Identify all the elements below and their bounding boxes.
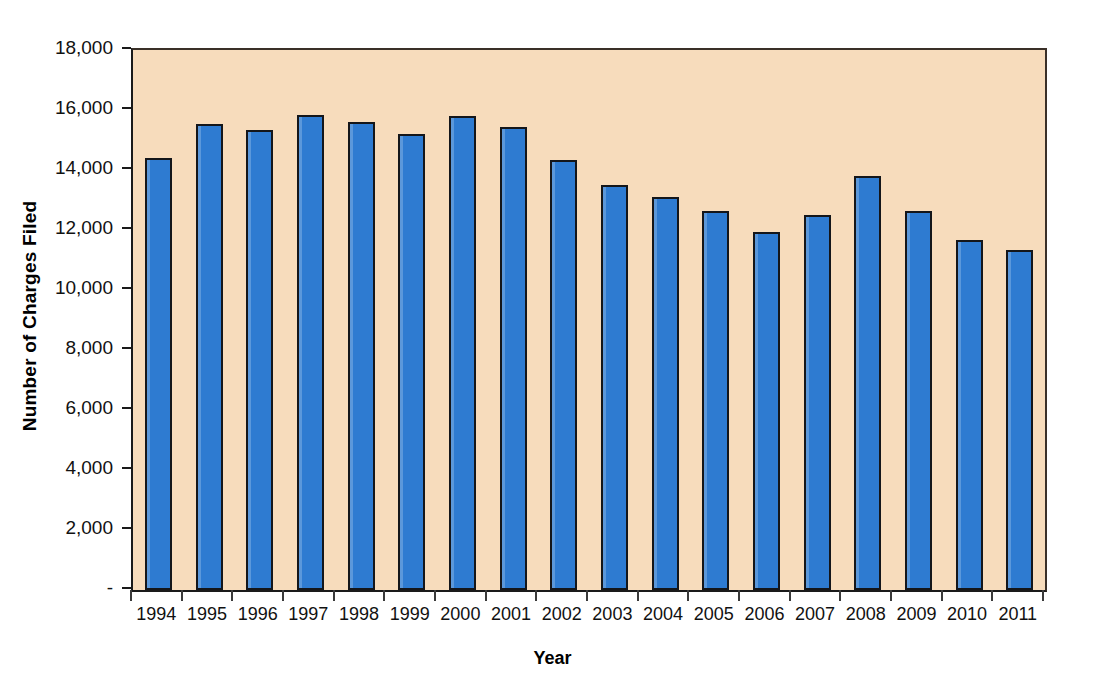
y-tick-0: - bbox=[107, 575, 131, 601]
x-tick-label-2008: 2008 bbox=[840, 604, 891, 625]
plot-area bbox=[131, 48, 1047, 592]
bar-slot bbox=[944, 50, 995, 590]
x-tick-mark-icon bbox=[232, 590, 283, 602]
bar-slot bbox=[488, 50, 539, 590]
y-tick-label: 6,000 bbox=[65, 397, 122, 419]
y-tick-label: 18,000 bbox=[55, 37, 122, 59]
x-tick-label-2009: 2009 bbox=[891, 604, 942, 625]
y-tick-label: 12,000 bbox=[55, 217, 122, 239]
bar-slot bbox=[994, 50, 1045, 590]
x-tick-mark-icon bbox=[790, 590, 841, 602]
bar-2005[interactable] bbox=[702, 211, 729, 591]
y-tick-label: 4,000 bbox=[65, 457, 122, 479]
x-tick-label-1999: 1999 bbox=[384, 604, 435, 625]
bar-slot bbox=[842, 50, 893, 590]
y-tick-8000: 8,000 bbox=[65, 335, 131, 361]
x-tick-mark-icon bbox=[384, 590, 435, 602]
x-tick-mark-icon bbox=[688, 590, 739, 602]
y-tick-12000: 12,000 bbox=[55, 215, 131, 241]
x-tick-mark-icon bbox=[435, 590, 486, 602]
x-tick-label-2007: 2007 bbox=[790, 604, 841, 625]
x-tick-label-1997: 1997 bbox=[283, 604, 334, 625]
bar-1996[interactable] bbox=[246, 130, 273, 591]
bar-2002[interactable] bbox=[550, 160, 577, 591]
x-tick-label-1996: 1996 bbox=[232, 604, 283, 625]
bar-slot bbox=[792, 50, 843, 590]
x-tick-label-2001: 2001 bbox=[486, 604, 537, 625]
y-tick-mark-icon bbox=[122, 527, 131, 529]
y-tick-label: 10,000 bbox=[55, 277, 122, 299]
y-tick-label: 2,000 bbox=[65, 517, 122, 539]
bar-2004[interactable] bbox=[652, 197, 679, 590]
y-tick-2000: 2,000 bbox=[65, 515, 131, 541]
x-tick-mark-icon bbox=[638, 590, 689, 602]
bar-2006[interactable] bbox=[753, 232, 780, 591]
y-tick-mark-icon bbox=[122, 167, 131, 169]
bars-layer bbox=[133, 50, 1045, 590]
bar-1995[interactable] bbox=[196, 124, 223, 591]
x-tick-mark-icon bbox=[334, 590, 385, 602]
x-tick-mark-icon bbox=[891, 590, 942, 602]
bar-slot bbox=[640, 50, 691, 590]
y-tick-mark-icon bbox=[122, 347, 131, 349]
bar-slot bbox=[336, 50, 387, 590]
x-tick-label-2003: 2003 bbox=[587, 604, 638, 625]
x-tick-mark-icon bbox=[587, 590, 638, 602]
x-tick-mark-icon bbox=[283, 590, 334, 602]
bar-2011[interactable] bbox=[1006, 250, 1033, 591]
y-tick-label: 14,000 bbox=[55, 157, 122, 179]
x-tick-label-1995: 1995 bbox=[182, 604, 233, 625]
bar-2003[interactable] bbox=[601, 185, 628, 590]
y-tick-mark-icon bbox=[122, 227, 131, 229]
bar-1994[interactable] bbox=[145, 158, 172, 590]
y-tick-mark-icon bbox=[122, 587, 131, 589]
y-tick-18000: 18,000 bbox=[55, 35, 131, 61]
bar-2010[interactable] bbox=[956, 240, 983, 590]
bar-chart: Number of Charges Filed 18,000 16,000 14… bbox=[0, 0, 1105, 695]
bar-2009[interactable] bbox=[905, 211, 932, 591]
x-tick-label-1994: 1994 bbox=[131, 604, 182, 625]
bar-slot bbox=[386, 50, 437, 590]
bar-slot bbox=[184, 50, 235, 590]
bar-1999[interactable] bbox=[398, 134, 425, 590]
y-tick-label: 16,000 bbox=[55, 97, 122, 119]
x-tick-label-2011: 2011 bbox=[992, 604, 1043, 625]
bar-slot bbox=[538, 50, 589, 590]
bar-slot bbox=[589, 50, 640, 590]
x-tick-label-2005: 2005 bbox=[688, 604, 739, 625]
bar-2007[interactable] bbox=[804, 215, 831, 590]
x-tick-mark-icon bbox=[992, 590, 1043, 602]
bar-slot bbox=[285, 50, 336, 590]
y-tick-14000: 14,000 bbox=[55, 155, 131, 181]
x-tick-label-1998: 1998 bbox=[334, 604, 385, 625]
x-tick-mark-icon bbox=[942, 590, 993, 602]
x-tick-label-2002: 2002 bbox=[536, 604, 587, 625]
bar-1998[interactable] bbox=[348, 122, 375, 590]
x-tick-mark-icon bbox=[739, 590, 790, 602]
x-tick-marks bbox=[131, 590, 1043, 602]
x-tick-mark-icon bbox=[131, 590, 182, 602]
y-tick-16000: 16,000 bbox=[55, 95, 131, 121]
bar-slot bbox=[741, 50, 792, 590]
bar-slot bbox=[133, 50, 184, 590]
x-tick-label-2006: 2006 bbox=[739, 604, 790, 625]
x-tick-label-2010: 2010 bbox=[942, 604, 993, 625]
x-tick-mark-icon bbox=[182, 590, 233, 602]
x-tick-label-2004: 2004 bbox=[638, 604, 689, 625]
y-tick-mark-icon bbox=[122, 107, 131, 109]
x-axis: 1994199519961997199819992000200120022003… bbox=[131, 590, 1047, 642]
bar-2008[interactable] bbox=[854, 176, 881, 590]
y-tick-4000: 4,000 bbox=[65, 455, 131, 481]
bar-2001[interactable] bbox=[500, 127, 527, 591]
x-tick-mark-icon bbox=[536, 590, 587, 602]
x-tick-mark-icon bbox=[840, 590, 891, 602]
y-tick-6000: 6,000 bbox=[65, 395, 131, 421]
y-tick-mark-icon bbox=[122, 467, 131, 469]
bar-slot bbox=[437, 50, 488, 590]
bar-2000[interactable] bbox=[449, 116, 476, 590]
y-tick-label: 8,000 bbox=[65, 337, 122, 359]
bar-slot bbox=[234, 50, 285, 590]
bar-1997[interactable] bbox=[297, 115, 324, 591]
y-tick-10000: 10,000 bbox=[55, 275, 131, 301]
y-tick-label: - bbox=[107, 577, 122, 599]
